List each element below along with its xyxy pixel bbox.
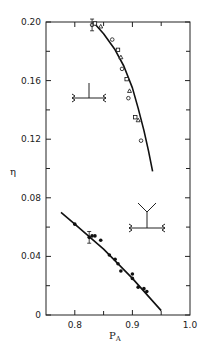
x-axis-label: PA <box>109 330 122 343</box>
data-point-filled <box>93 234 97 238</box>
chart: 0.80.91.000.040.080.120.160.20 η PA <box>0 0 204 358</box>
y-branch-structure-icon <box>129 203 165 232</box>
data-point-open-triangle <box>99 24 103 28</box>
x-tick-label: 0.8 <box>68 320 83 330</box>
fit-curve <box>61 212 161 310</box>
fit-curve <box>93 22 152 171</box>
data-point-filled <box>145 290 149 294</box>
data-point-open-square <box>93 22 96 25</box>
data-point-open-circle <box>110 38 114 42</box>
data-point-open-circle <box>127 96 131 100</box>
data-points <box>73 19 149 293</box>
y-tick-label: 0.08 <box>21 193 41 203</box>
data-point-filled <box>136 285 140 289</box>
data-point-filled <box>99 238 103 242</box>
plot-frame <box>46 22 190 315</box>
data-point-open-circle <box>120 67 124 71</box>
data-point-open-triangle <box>128 89 132 93</box>
data-point-filled <box>119 269 123 273</box>
t-branch-structure-icon <box>72 83 106 102</box>
data-point-open-triangle <box>119 55 123 59</box>
axis-ticks <box>46 22 190 315</box>
fit-curves <box>61 22 161 311</box>
data-point-filled <box>116 262 120 266</box>
data-point-filled <box>108 253 112 257</box>
data-point-filled <box>142 287 146 291</box>
data-point-filled <box>113 258 117 262</box>
data-point-open-square <box>134 116 137 119</box>
data-point-filled <box>73 222 77 226</box>
y-tick-label: 0.04 <box>21 251 41 261</box>
x-tick-label: 0.9 <box>125 320 140 330</box>
axis-tick-labels: 0.80.91.000.040.080.120.160.20 <box>21 17 197 330</box>
x-tick-label: 1.0 <box>183 320 198 330</box>
y-tick-label: 0 <box>35 310 41 320</box>
data-point-filled <box>131 277 135 281</box>
data-point-open-circle <box>139 139 143 143</box>
data-point-filled <box>131 272 135 276</box>
data-point-open-square <box>125 77 128 80</box>
y-axis-label: η <box>10 166 16 177</box>
y-tick-label: 0.16 <box>21 76 41 86</box>
y-tick-label: 0.20 <box>21 17 41 27</box>
data-point-open-square <box>116 48 119 51</box>
x-axis-label-subscript: A <box>115 335 122 343</box>
y-tick-label: 0.12 <box>21 134 41 144</box>
